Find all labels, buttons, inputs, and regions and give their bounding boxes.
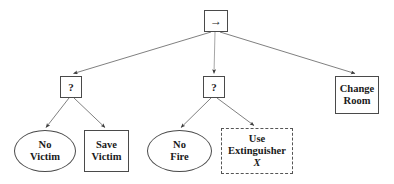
root-sequence-node[interactable]: → — [204, 10, 228, 32]
edge-root-to-selector-victim — [74, 32, 212, 74]
action-save-victim-label: Save Victim — [91, 139, 123, 163]
action-use-extinguisher[interactable]: Use Extinguisher X — [221, 128, 293, 174]
root-sequence-label: → — [209, 15, 223, 27]
selector-node-fire[interactable]: ? — [203, 76, 225, 98]
action-change-room-label: Change Room — [339, 83, 375, 107]
condition-no-victim-label: No Victim — [29, 139, 61, 163]
edge-selector-victim-to-save-victim — [74, 98, 105, 128]
selector-node-fire-label: ? — [210, 81, 218, 93]
edge-root-to-selector-fire — [214, 32, 215, 74]
action-change-room[interactable]: Change Room — [335, 76, 379, 114]
edge-root-to-change-room — [220, 32, 355, 74]
condition-no-fire[interactable]: No Fire — [147, 130, 212, 172]
action-use-extinguisher-label: Use Extinguisher — [227, 133, 287, 157]
action-save-victim[interactable]: Save Victim — [84, 130, 129, 172]
edge-selector-fire-to-no-fire — [181, 98, 211, 128]
action-use-extinguisher-param: X — [252, 157, 261, 169]
edge-selector-fire-to-use-extinguisher — [217, 98, 254, 126]
selector-node-victim[interactable]: ? — [60, 76, 82, 98]
selector-node-victim-label: ? — [67, 81, 75, 93]
condition-no-fire-label: No Fire — [169, 139, 189, 163]
edge-selector-victim-to-no-victim — [46, 98, 69, 128]
condition-no-victim[interactable]: No Victim — [14, 130, 76, 172]
